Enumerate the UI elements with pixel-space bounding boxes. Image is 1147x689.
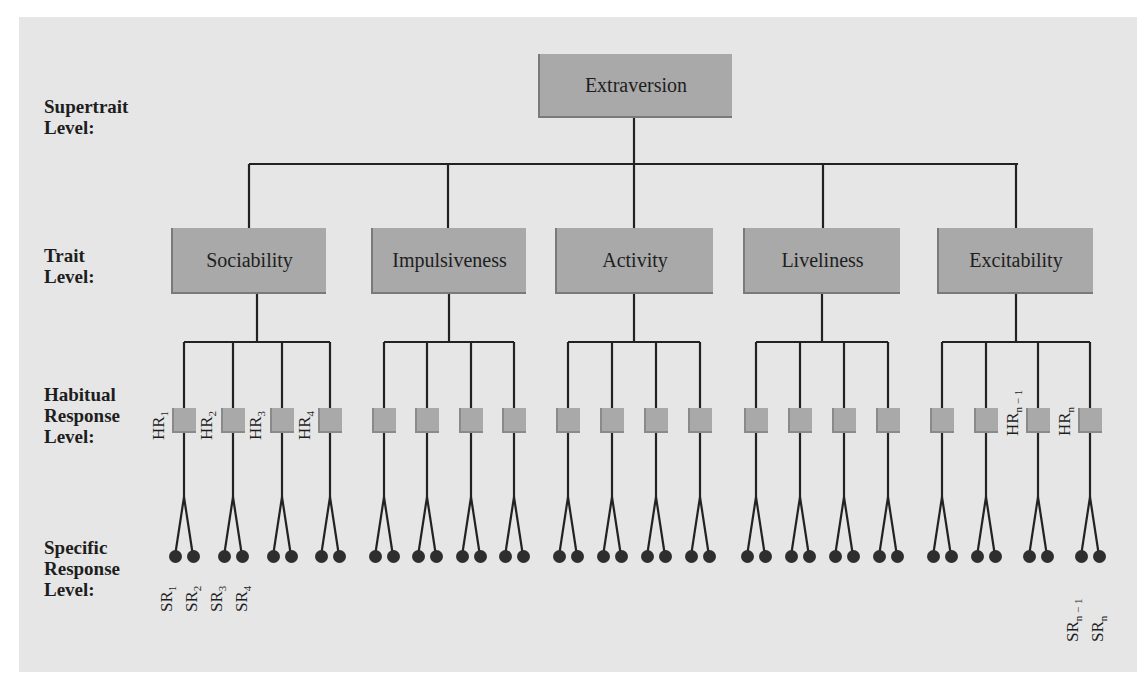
sr2-label: SR2: [183, 586, 206, 612]
specific-response-dot: [945, 550, 958, 563]
habitual-level-label: Habitual Response Level:: [44, 384, 120, 447]
specific-response-dot: [803, 550, 816, 563]
specific-response-dot: [1023, 550, 1036, 563]
hr2-label: HR2: [198, 411, 221, 440]
trait-label: Excitability: [969, 249, 1062, 272]
specific-level-label: Specific Response Level:: [44, 537, 120, 600]
trait-label: Sociability: [206, 249, 293, 272]
hrn-label: HRn: [1056, 407, 1079, 436]
specific-response-dot: [285, 550, 298, 563]
specific-response-dot: [1093, 550, 1106, 563]
trait-box-sociability: Sociability: [171, 228, 326, 294]
habitual-response-box: [502, 408, 526, 433]
trait-label: Impulsiveness: [392, 249, 506, 272]
supertrait-label: Extraversion: [585, 74, 687, 97]
trait-box-liveliness: Liveliness: [743, 228, 900, 294]
habitual-response-box: [318, 408, 342, 433]
specific-response-dot: [685, 550, 698, 563]
habitual-response-box: [644, 408, 668, 433]
trait-box-activity: Activity: [555, 228, 713, 294]
specific-response-dot: [517, 550, 530, 563]
hr1-label: HR1: [150, 411, 173, 440]
habitual-response-box: [832, 408, 856, 433]
specific-response-dot: [333, 550, 346, 563]
sr4-label: SR4: [233, 586, 256, 612]
srn-label: SRn: [1089, 616, 1112, 642]
label-line: Level:: [44, 117, 128, 138]
label-line: Response: [44, 558, 120, 579]
habitual-response-box: [459, 408, 483, 433]
habitual-response-box: [876, 408, 900, 433]
specific-response-dot: [641, 550, 654, 563]
specific-response-dot: [741, 550, 754, 563]
specific-response-dot: [187, 550, 200, 563]
hr4-label: HR4: [296, 411, 319, 440]
habitual-response-box: [270, 408, 294, 433]
srn-1-label: SRn − 1: [1064, 598, 1087, 642]
habitual-response-box: [688, 408, 712, 433]
sr3-label: SR3: [208, 586, 231, 612]
specific-response-dot: [315, 550, 328, 563]
trait-box-impulsiveness: Impulsiveness: [371, 228, 526, 294]
habitual-response-box: [415, 408, 439, 433]
label-line: Habitual: [44, 384, 120, 405]
habitual-response-box: [556, 408, 580, 433]
supertrait-level-label: Supertrait Level:: [44, 96, 128, 138]
specific-response-dot: [659, 550, 672, 563]
specific-response-dot: [785, 550, 798, 563]
specific-response-dot: [169, 550, 182, 563]
label-line: Specific: [44, 537, 120, 558]
specific-response-dot: [553, 550, 566, 563]
specific-response-dot: [236, 550, 249, 563]
habitual-response-box: [974, 408, 998, 433]
specific-response-dot: [971, 550, 984, 563]
specific-response-dot: [267, 550, 280, 563]
trait-level-label: Trait Level:: [44, 245, 95, 287]
label-line: Response: [44, 405, 120, 426]
specific-response-dot: [703, 550, 716, 563]
label-line: Level:: [44, 579, 120, 600]
specific-response-dot: [474, 550, 487, 563]
trait-label: Activity: [602, 249, 668, 272]
specific-response-dot: [369, 550, 382, 563]
specific-response-dot: [387, 550, 400, 563]
habitual-response-box: [744, 408, 768, 433]
habitual-response-box: [600, 408, 624, 433]
label-line: Trait: [44, 245, 95, 266]
specific-response-dot: [218, 550, 231, 563]
hrn-1-label: HRn − 1: [1004, 390, 1027, 436]
habitual-response-box: [930, 408, 954, 433]
specific-response-dot: [873, 550, 886, 563]
specific-response-dot: [989, 550, 1002, 563]
specific-response-dot: [430, 550, 443, 563]
label-line: Level:: [44, 266, 95, 287]
label-line: Supertrait: [44, 96, 128, 117]
habitual-response-box: [172, 408, 196, 433]
label-line: Level:: [44, 426, 120, 447]
specific-response-dot: [891, 550, 904, 563]
specific-response-dot: [499, 550, 512, 563]
specific-response-dot: [829, 550, 842, 563]
habitual-response-box: [1078, 408, 1102, 433]
habitual-response-box: [221, 408, 245, 433]
specific-response-dot: [759, 550, 772, 563]
habitual-response-box: [372, 408, 396, 433]
specific-response-dot: [412, 550, 425, 563]
hr3-label: HR3: [247, 411, 270, 440]
supertrait-box-extraversion: Extraversion: [538, 54, 732, 118]
specific-response-dot: [927, 550, 940, 563]
specific-response-dot: [1041, 550, 1054, 563]
habitual-response-box: [1026, 408, 1050, 433]
specific-response-dot: [597, 550, 610, 563]
specific-response-dot: [571, 550, 584, 563]
specific-response-dot: [456, 550, 469, 563]
specific-response-dot: [615, 550, 628, 563]
specific-response-dot: [847, 550, 860, 563]
trait-box-excitability: Excitability: [937, 228, 1093, 294]
specific-response-dot: [1075, 550, 1088, 563]
trait-label: Liveliness: [781, 249, 863, 272]
sr1-label: SR1: [158, 586, 181, 612]
habitual-response-box: [788, 408, 812, 433]
